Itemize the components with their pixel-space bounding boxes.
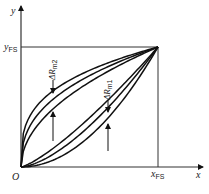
origin-label: O <box>12 171 19 182</box>
x-axis-label: x <box>195 169 201 180</box>
y-fs-label: yFS <box>3 41 18 53</box>
upper-curve-3 <box>21 47 158 167</box>
delta-rm1-label: ΔRm1 <box>102 79 113 101</box>
upper-curve-1 <box>21 47 158 167</box>
curve-group <box>21 47 158 167</box>
upper-curve-2 <box>21 47 158 167</box>
lower-curve-2 <box>21 47 158 167</box>
y-axis-label: y <box>10 5 16 16</box>
x-fs-label: xFS <box>150 168 165 180</box>
lower-curve-1 <box>21 47 158 167</box>
nonlinearity-diagram: ΔRm2 ΔRm1 y x O yFS xFS <box>0 0 209 194</box>
delta-rm2-label: ΔRm2 <box>47 59 58 81</box>
lower-curve-3 <box>21 47 158 167</box>
